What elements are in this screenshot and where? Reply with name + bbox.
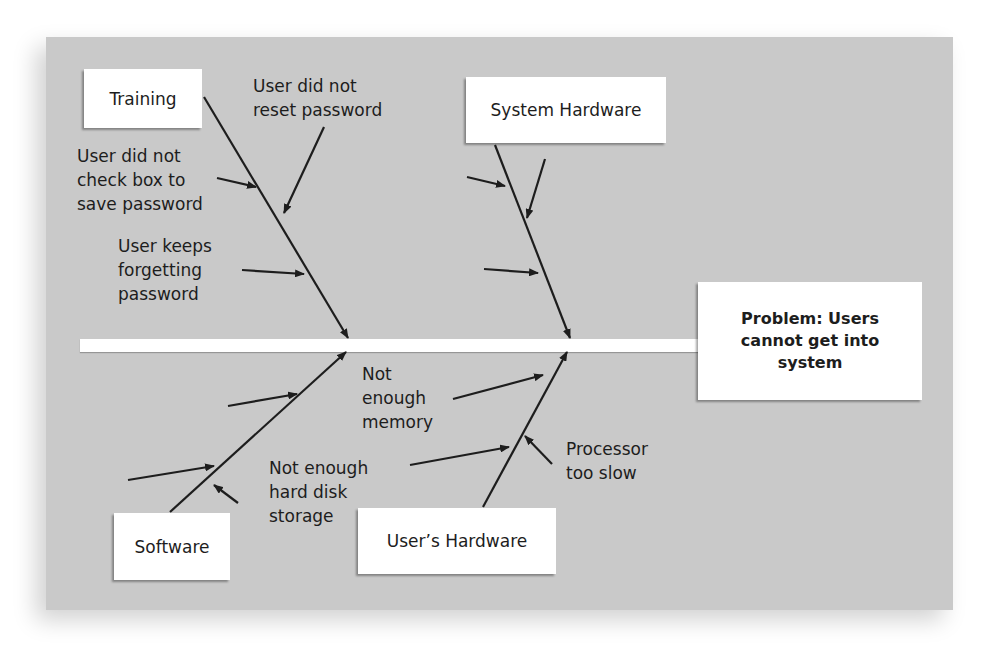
cause-not-enough-memory: Not enough memory [362,362,433,434]
cause-check-box: User did not check box to save password [77,144,203,216]
category-label-users-hardware: User’s Hardware [387,531,528,551]
category-box-users-hardware: User’s Hardware [358,508,556,574]
problem-line-1: Problem: Users [741,308,879,330]
cause-reset-password: User did not reset password [253,74,382,122]
category-box-training: Training [84,69,202,128]
problem-line-3: system [778,352,843,374]
category-label-training: Training [109,89,176,109]
cause-processor-too-slow: Processor too slow [566,437,648,485]
cause-hard-disk-storage: Not enough hard disk storage [269,456,368,528]
category-box-software: Software [114,513,230,580]
category-label-software: Software [135,537,210,557]
category-box-system-hardware: System Hardware [466,77,666,143]
category-label-system-hardware: System Hardware [491,100,642,120]
problem-line-2: cannot get into [741,330,879,352]
cause-forgetting-password: User keeps forgetting password [118,234,212,306]
problem-box: Problem: Users cannot get into system [698,282,922,400]
